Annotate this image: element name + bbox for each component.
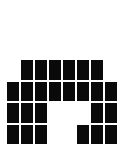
- module-filled: [90, 102, 104, 124]
- module-filled: [90, 59, 104, 81]
- module-empty: [104, 59, 118, 81]
- module-empty: [6, 59, 20, 81]
- module-filled: [6, 124, 20, 146]
- module-filled: [6, 81, 20, 103]
- module-filled: [34, 59, 48, 81]
- module-filled: [20, 124, 34, 146]
- pixel-block-glyph: [6, 59, 118, 145]
- module-filled: [20, 59, 34, 81]
- module-empty: [62, 102, 76, 124]
- module-filled: [34, 102, 48, 124]
- module-filled: [62, 81, 76, 103]
- module-filled: [104, 81, 118, 103]
- module-filled: [76, 81, 90, 103]
- module-filled: [90, 124, 104, 146]
- module-empty: [48, 102, 62, 124]
- module-filled: [90, 81, 104, 103]
- module-empty: [62, 124, 76, 146]
- glyph-canvas: [0, 0, 124, 147]
- module-empty: [76, 102, 90, 124]
- module-filled: [62, 59, 76, 81]
- module-filled: [48, 81, 62, 103]
- module-filled: [104, 124, 118, 146]
- module-filled: [20, 81, 34, 103]
- module-empty: [48, 124, 62, 146]
- module-filled: [76, 59, 90, 81]
- module-filled: [34, 124, 48, 146]
- module-filled: [76, 124, 90, 146]
- module-filled: [34, 81, 48, 103]
- module-filled: [20, 102, 34, 124]
- module-filled: [104, 102, 118, 124]
- module-filled: [6, 102, 20, 124]
- module-filled: [48, 59, 62, 81]
